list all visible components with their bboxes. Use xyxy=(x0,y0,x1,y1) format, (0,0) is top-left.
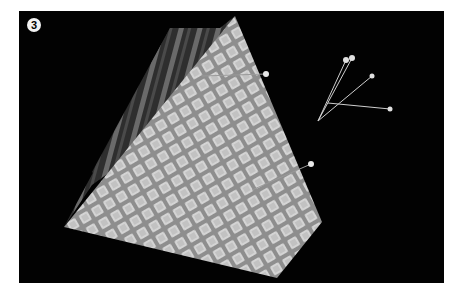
pyramid-illustration xyxy=(0,0,454,298)
loose-pins xyxy=(318,55,393,121)
